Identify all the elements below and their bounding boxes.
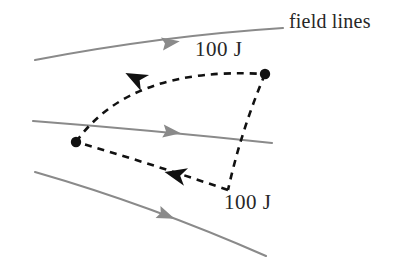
- field-line-top: [35, 28, 283, 60]
- dashed-arc-top-arrow-icon: [121, 65, 149, 91]
- dashed-edge-bottom: [76, 142, 228, 190]
- dashed-edge-bottom-arrow-icon: [163, 163, 188, 185]
- field-line-bottom-arrow-icon: [156, 206, 178, 225]
- work-label-top: 100 J: [195, 39, 242, 60]
- field-lines-label: field lines: [289, 11, 371, 31]
- work-label-bottom: 100 J: [224, 192, 271, 213]
- field-lines-group: [33, 28, 283, 256]
- field-line-bottom: [35, 172, 266, 256]
- physics-field-line-figure: field lines 100 J 100 J: [0, 0, 404, 261]
- dashed-edge-right: [228, 74, 265, 190]
- vertex-right-top-dot: [260, 69, 270, 79]
- vertex-left-dot: [71, 137, 81, 147]
- field-line-middle: [33, 121, 272, 143]
